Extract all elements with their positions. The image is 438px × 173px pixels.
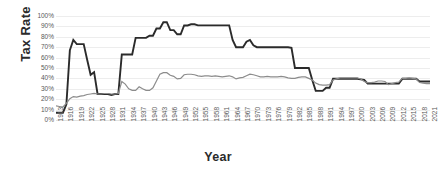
- x-tick-label: 1940: [151, 105, 158, 137]
- x-tick-label: 1916: [67, 105, 74, 137]
- x-tick-label: 1922: [88, 105, 95, 137]
- x-tick-label: 2015: [410, 105, 417, 137]
- y-tick-label: 60%: [30, 55, 54, 61]
- x-tick-label: 2012: [400, 105, 407, 137]
- y-tick-label: 80%: [30, 34, 54, 40]
- x-tick-label: 1991: [327, 105, 334, 137]
- x-tick-label: 1943: [161, 105, 168, 137]
- x-tick-label: 1988: [317, 105, 324, 137]
- y-tick-label: 10%: [30, 107, 54, 113]
- y-tick-label: 70%: [30, 44, 54, 50]
- x-tick-label: 1949: [182, 105, 189, 137]
- x-tick-label: 1967: [244, 105, 251, 137]
- x-tick-label: 1955: [202, 105, 209, 137]
- x-tick-label: 1937: [140, 105, 147, 137]
- x-axis-title: Year: [0, 150, 436, 164]
- y-tick-label: 90%: [30, 23, 54, 29]
- x-tick-label: 1934: [130, 105, 137, 137]
- x-tick-label: 1946: [171, 105, 178, 137]
- x-tick-label: 1928: [109, 105, 116, 137]
- x-tick-label: 1994: [338, 105, 345, 137]
- x-tick-label: 2006: [379, 105, 386, 137]
- x-tick-label: 2021: [431, 105, 438, 137]
- x-tick-label: 2000: [358, 105, 365, 137]
- series-line: [56, 73, 430, 107]
- x-tick-label: 1970: [254, 105, 261, 137]
- x-tick-label: 1952: [192, 105, 199, 137]
- x-tick-label: 2018: [421, 105, 428, 137]
- x-tick-label: 1958: [213, 105, 220, 137]
- x-tick-label: 1976: [275, 105, 282, 137]
- x-axis-tick-labels: 1913191619191922192519281931193419371940…: [56, 121, 430, 151]
- x-tick-label: 1964: [234, 105, 241, 137]
- x-tick-label: 1973: [265, 105, 272, 137]
- x-tick-label: 1919: [78, 105, 85, 137]
- x-tick-label: 1997: [348, 105, 355, 137]
- x-tick-label: 2003: [369, 105, 376, 137]
- x-tick-label: 1913: [57, 105, 64, 137]
- x-tick-label: 2009: [389, 105, 396, 137]
- y-axis-tick-labels: 100%90%80%70%60%50%40%30%20%10%0%: [30, 10, 54, 124]
- x-tick-label: 1985: [306, 105, 313, 137]
- x-tick-label: 1925: [99, 105, 106, 137]
- y-tick-label: 30%: [30, 86, 54, 92]
- x-tick-label: 1931: [119, 105, 126, 137]
- y-tick-label: 50%: [30, 65, 54, 71]
- x-tick-label: 1979: [286, 105, 293, 137]
- x-tick-label: 1961: [223, 105, 230, 137]
- y-tick-label: 100%: [30, 13, 54, 19]
- y-tick-label: 40%: [30, 75, 54, 81]
- series-line: [56, 22, 430, 112]
- y-tick-label: 20%: [30, 96, 54, 102]
- x-tick-label: 1982: [296, 105, 303, 137]
- y-tick-label: 0%: [30, 117, 54, 123]
